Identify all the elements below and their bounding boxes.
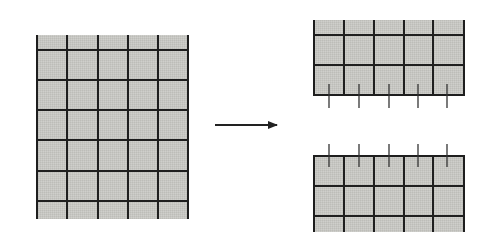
diagram-canvas [0, 0, 497, 250]
grid-fill [314, 156, 464, 232]
original-grid [36, 35, 189, 219]
grid-fill [37, 35, 188, 219]
lower-split-grid [313, 144, 465, 232]
upper-split-grid [313, 20, 465, 108]
